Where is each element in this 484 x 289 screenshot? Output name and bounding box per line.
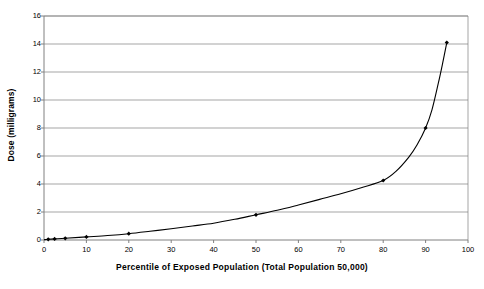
x-tick-label: 100 [462, 246, 475, 254]
x-tick-label: 40 [209, 246, 217, 254]
tick-marks [41, 16, 468, 243]
x-tick-label: 60 [294, 246, 302, 254]
x-axis-tick-labels: 0102030405060708090100 [0, 246, 484, 260]
x-tick-label: 70 [337, 246, 345, 254]
x-tick-label: 30 [167, 246, 175, 254]
gridlines [44, 16, 468, 212]
x-tick-label: 0 [42, 246, 46, 254]
x-tick-label: 90 [421, 246, 429, 254]
data-point-markers [46, 41, 449, 242]
dose-percentile-chart: Dose (milligrams) 0246810121416 01020304… [0, 0, 484, 289]
x-tick-label: 80 [379, 246, 387, 254]
x-tick-label: 20 [125, 246, 133, 254]
x-tick-label: 10 [82, 246, 90, 254]
x-axis-label: Percentile of Exposed Population (Total … [0, 262, 484, 272]
x-tick-label: 50 [252, 246, 260, 254]
